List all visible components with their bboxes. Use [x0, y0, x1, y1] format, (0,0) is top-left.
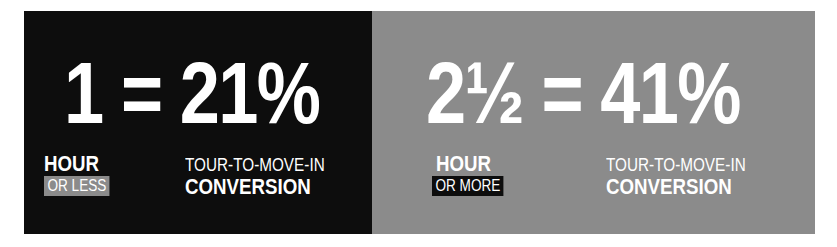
right-panel: 2½ = 41% HOUR OR MORE TOUR-TO-MOVE-IN CO… — [372, 11, 815, 234]
left-unit: HOUR — [44, 153, 99, 175]
left-metric-top: TOUR-TO-MOVE-IN — [185, 154, 325, 176]
right-metric-top: TOUR-TO-MOVE-IN — [606, 154, 746, 176]
left-metric-bottom: CONVERSION — [185, 176, 311, 198]
left-stat: 1 = 21% — [64, 53, 319, 133]
right-metric-bottom: CONVERSION — [606, 176, 732, 198]
right-qualifier-badge: OR MORE — [432, 176, 504, 196]
left-qualifier-badge: OR LESS — [44, 176, 110, 196]
right-unit: HOUR — [436, 153, 491, 175]
left-panel: 1 = 21% HOUR OR LESS TOUR-TO-MOVE-IN CON… — [24, 11, 372, 234]
right-stat: 2½ = 41% — [426, 53, 740, 133]
